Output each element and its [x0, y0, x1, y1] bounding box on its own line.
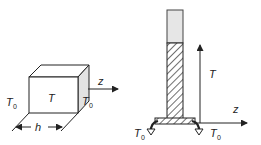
left-face-temp-label: T0 [6, 96, 17, 110]
h-label: h [35, 121, 41, 133]
base-heat-arrow-right-head [195, 129, 203, 135]
svg-text:0: 0 [13, 103, 17, 110]
z-axis-label-left: z [97, 75, 104, 87]
svg-text:0: 0 [89, 102, 93, 109]
column-lower-hatched [167, 43, 183, 121]
z-axis-label-right: z [232, 103, 239, 115]
base-heat-arrow-left-head [147, 129, 155, 135]
right-face-temp-label: T0 [82, 95, 93, 109]
svg-text:0: 0 [141, 134, 145, 141]
right-base-temp-label: T0 [210, 127, 221, 141]
slab-block [29, 65, 89, 113]
diagram-canvas: T T0 T0 z h T z T0 T0 [0, 0, 261, 145]
column-base-hatched [155, 118, 195, 124]
temperature-axis-label: T [209, 68, 217, 80]
column-upper-shaded [167, 10, 183, 43]
left-base-temp-label: T0 [134, 127, 145, 141]
column [155, 10, 195, 124]
h-extension-right [61, 113, 78, 131]
svg-text:0: 0 [217, 134, 221, 141]
h-extension-left [12, 113, 29, 131]
